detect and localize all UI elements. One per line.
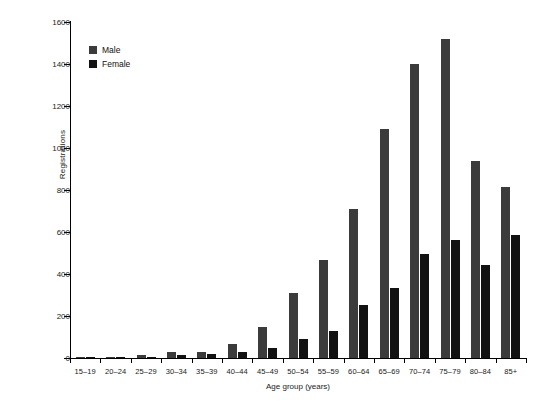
x-axis-tick-label: 80–84 [470, 367, 491, 376]
y-axis-tick-label: 200 [36, 312, 70, 321]
x-axis-line [70, 358, 526, 359]
x-axis-tick-label: 65–69 [379, 367, 400, 376]
bar-female-55-59 [329, 331, 338, 358]
bar-female-70-74 [420, 254, 429, 358]
bar-male-75-79 [441, 39, 450, 358]
legend-item-label: Male [102, 46, 120, 55]
x-axis-tick-label: 85+ [504, 367, 517, 376]
bar-female-85+ [511, 235, 520, 358]
bar-female-50-54 [299, 339, 308, 358]
x-axis-tick-label: 35–39 [196, 367, 217, 376]
bar-male-35-39 [197, 352, 206, 358]
x-axis-tick [131, 358, 132, 363]
x-axis-tick-label: 15–19 [75, 367, 96, 376]
legend-item: Female [89, 58, 130, 70]
bar-chart-figure: Registrations 02004006008001000120014001… [0, 0, 539, 405]
y-axis-tick-label: 0 [36, 354, 70, 363]
bar-male-85+ [501, 187, 510, 358]
bar-male-15-19 [76, 357, 85, 358]
x-axis-tick [465, 358, 466, 363]
bar-male-30-34 [167, 352, 176, 358]
y-axis-title: Registrations [58, 95, 67, 215]
bar-male-20-24 [106, 357, 115, 358]
x-axis-tick [435, 358, 436, 363]
bar-female-45-49 [268, 348, 277, 359]
x-axis-tick-label: 55–59 [318, 367, 339, 376]
x-axis-tick [404, 358, 405, 363]
x-axis-tick [344, 358, 345, 363]
x-axis-tick [222, 358, 223, 363]
bar-female-75-79 [451, 240, 460, 358]
x-axis-tick-label: 70–74 [409, 367, 430, 376]
x-axis-tick [283, 358, 284, 363]
bar-female-25-29 [147, 357, 156, 358]
x-axis-tick [526, 358, 527, 363]
x-axis-tick [374, 358, 375, 363]
legend-swatch-icon [89, 46, 97, 54]
bar-male-65-69 [380, 129, 389, 358]
x-axis-tick [252, 358, 253, 363]
x-axis-tick-label: 25–29 [135, 367, 156, 376]
x-axis-tick [100, 358, 101, 363]
legend-item-label: Female [102, 60, 130, 69]
legend-item: Male [89, 44, 130, 56]
bar-male-50-54 [289, 293, 298, 358]
x-axis-tick-label: 40–44 [227, 367, 248, 376]
x-axis-tick-label: 75–79 [439, 367, 460, 376]
x-axis-tick [313, 358, 314, 363]
bar-male-60-64 [349, 209, 358, 358]
bar-female-65-69 [390, 288, 399, 358]
bar-male-80-84 [471, 161, 480, 358]
x-axis-tick [192, 358, 193, 363]
y-axis-tick-label: 400 [36, 270, 70, 279]
bar-female-60-64 [359, 305, 368, 358]
chart-legend: MaleFemale [89, 44, 130, 72]
y-axis-tick-label: 800 [36, 186, 70, 195]
bar-male-45-49 [258, 327, 267, 359]
bar-male-40-44 [228, 344, 237, 358]
y-axis-tick-label: 1200 [36, 102, 70, 111]
y-axis-tick-label: 600 [36, 228, 70, 237]
x-axis-tick [70, 358, 71, 363]
x-axis-tick-label: 20–24 [105, 367, 126, 376]
bar-male-55-59 [319, 260, 328, 358]
y-axis-tick-label: 1000 [36, 144, 70, 153]
bar-female-35-39 [207, 354, 216, 358]
y-axis-tick-label: 1400 [36, 60, 70, 69]
x-axis-tick-label: 30–34 [166, 367, 187, 376]
x-axis-tick-label: 45–49 [257, 367, 278, 376]
bar-male-70-74 [410, 64, 419, 358]
bar-female-15-19 [86, 357, 95, 358]
bars-layer [70, 22, 526, 358]
bar-female-30-34 [177, 355, 186, 358]
x-axis-tick-label: 60–64 [348, 367, 369, 376]
bar-male-25-29 [137, 355, 146, 358]
legend-swatch-icon [89, 60, 97, 68]
bar-female-20-24 [116, 357, 125, 358]
x-axis-tick [161, 358, 162, 363]
bar-female-40-44 [238, 352, 247, 358]
x-axis-title: Age group (years) [70, 382, 526, 391]
bar-female-80-84 [481, 265, 490, 358]
x-axis-tick-label: 50–54 [287, 367, 308, 376]
y-axis-tick-label: 1600 [36, 18, 70, 27]
x-axis-tick [496, 358, 497, 363]
